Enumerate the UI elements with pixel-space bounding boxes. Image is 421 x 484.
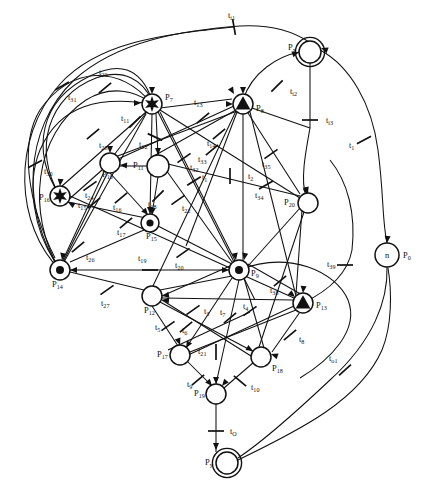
arc	[160, 302, 254, 352]
transition-bar	[55, 82, 69, 90]
transition-t28[interactable]	[87, 129, 99, 139]
arc	[70, 272, 144, 290]
place-circle	[147, 155, 169, 177]
place-label-P20: P20	[284, 198, 295, 208]
token-dot	[235, 266, 243, 274]
arc	[296, 210, 302, 294]
transition-t35[interactable]	[264, 149, 277, 158]
transition-label-ti1: ti1	[228, 11, 235, 21]
place-label-P7: P7	[165, 93, 173, 103]
arc	[25, 27, 234, 270]
transition-bar	[152, 190, 163, 201]
transition-t3[interactable]	[186, 305, 199, 314]
transition-label-t5: t5	[155, 323, 160, 333]
transition-t27[interactable]	[100, 285, 113, 294]
place-label-P15: P15	[146, 232, 157, 242]
arc	[62, 172, 104, 262]
transition-bar	[87, 129, 99, 139]
transition-bar	[115, 193, 127, 203]
transition-t24[interactable]	[83, 181, 96, 190]
transition-label-t1r: t1	[349, 141, 354, 151]
transition-label-t11: t11	[121, 114, 129, 124]
arc	[224, 362, 254, 388]
place-layer: n	[50, 37, 399, 477]
place-P15[interactable]	[141, 214, 159, 232]
transition-label-t12: t12	[139, 140, 147, 150]
place-P8[interactable]	[233, 94, 253, 114]
place-label-P18: P18	[272, 364, 283, 374]
arc	[248, 208, 300, 266]
place-label-Px: Px	[288, 43, 296, 53]
arc	[160, 276, 232, 290]
transition-label-ti3: ti3	[326, 116, 333, 126]
arc	[216, 280, 239, 384]
transition-label-t22: t22	[182, 204, 190, 214]
place-label-P0: P0	[403, 251, 411, 261]
transition-label-t39: t39	[327, 260, 335, 270]
place-P0[interactable]: n	[375, 243, 399, 267]
place-P9[interactable]	[229, 260, 249, 280]
transition-label-tO: tO	[230, 427, 237, 437]
transition-label-t28: t28	[99, 141, 107, 151]
token-dot	[146, 219, 153, 226]
transition-t31[interactable]	[55, 82, 69, 90]
transition-label-t34: t34	[255, 191, 263, 201]
place-label-P11: P11	[133, 161, 144, 171]
transition-label-t32: t32	[190, 163, 198, 173]
place-P18[interactable]	[251, 347, 271, 367]
transition-t12[interactable]	[148, 134, 163, 141]
transition-label-t10: t10	[251, 383, 259, 393]
transition-bar	[176, 248, 189, 257]
transition-label-t4: t4	[243, 302, 248, 312]
arc	[33, 101, 152, 262]
place-P7[interactable]	[142, 94, 162, 114]
transition-label-t7: t7	[220, 308, 225, 318]
place-label-P9: P9	[251, 269, 259, 279]
place-label-P16: P16	[39, 193, 50, 203]
place-circle	[142, 286, 162, 306]
place-Py[interactable]	[212, 448, 241, 477]
place-P12[interactable]	[142, 286, 162, 306]
arc	[303, 160, 353, 303]
transition-label-t24: t24	[85, 191, 93, 201]
transition-label-t9: t9	[187, 380, 192, 390]
transition-label-t27: t27	[101, 299, 109, 309]
transition-label-t33: t33	[198, 155, 206, 165]
transition-t1r[interactable]	[357, 136, 371, 144]
place-label-P13: P13	[316, 301, 327, 311]
transition-label-t13: t13	[194, 98, 202, 108]
place-label-P17: P17	[157, 350, 168, 360]
transition-t20[interactable]	[176, 248, 189, 257]
transition-label-t31: t31	[68, 93, 76, 103]
place-P14[interactable]	[50, 260, 70, 280]
transition-label-t26: t26	[86, 253, 94, 263]
place-P17[interactable]	[170, 345, 190, 365]
place-Px[interactable]	[295, 37, 324, 66]
transition-t9[interactable]	[192, 375, 204, 385]
place-circle	[206, 384, 226, 404]
place-P16[interactable]	[50, 186, 70, 206]
arc	[158, 112, 234, 262]
transition-bar	[284, 330, 296, 340]
transition-label-t18: t18	[148, 200, 156, 210]
place-P13[interactable]	[293, 293, 313, 313]
place-P11[interactable]	[147, 155, 169, 177]
transition-bar	[83, 181, 96, 190]
transition-label-t19: t19	[138, 254, 146, 264]
transition-label-ti2: ti2	[290, 87, 297, 97]
transition-t8[interactable]	[284, 330, 296, 340]
arc	[64, 172, 108, 260]
place-P19[interactable]	[206, 384, 226, 404]
transition-ti2[interactable]	[271, 80, 282, 91]
petri-net-canvas: n ti1ti2ti3t1t39to1tOt29t31t30t28t11t12t…	[0, 0, 421, 484]
transition-label-t35: t35	[262, 160, 270, 170]
arc	[33, 26, 309, 270]
transition-bar	[357, 136, 371, 144]
transition-t18[interactable]	[152, 190, 163, 201]
transition-t16[interactable]	[115, 193, 127, 203]
place-label-P14: P14	[52, 280, 63, 290]
transition-t10[interactable]	[234, 376, 246, 386]
place-P20[interactable]	[298, 193, 318, 213]
arc	[39, 91, 150, 270]
transition-label-t20: t20	[175, 261, 183, 271]
